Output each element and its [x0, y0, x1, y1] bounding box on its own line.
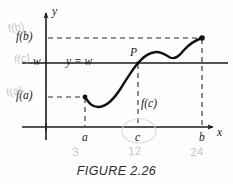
x-axis-label: x [217, 127, 222, 139]
label-w: w [33, 56, 41, 68]
y-axis-label: y [52, 6, 57, 18]
label-point-p: P [130, 47, 137, 59]
label-f-of-b: f(b) [16, 31, 33, 43]
point-p-marker [136, 61, 139, 64]
pencil-mark-24: 24 [190, 146, 204, 159]
tick-label-c: c [135, 132, 140, 144]
figure-caption: FIGURE 2.26 [0, 164, 233, 178]
label-line-equation: y = w [66, 56, 92, 68]
pencil-mark-12: 12 [128, 145, 142, 158]
curve-left-endpoint-dot [83, 95, 88, 100]
figure-2-26: y x f(b) w f(a) y = w P f(c) a c b 3 12 … [0, 0, 233, 184]
tick-label-b: b [199, 132, 205, 144]
pencil-ghost-f-of-c: f(c) [13, 52, 30, 65]
tick-label-a: a [82, 132, 88, 144]
curve-right-endpoint-dot [199, 35, 205, 41]
label-f-of-c: f(c) [141, 98, 157, 110]
pencil-mark-3: 3 [71, 146, 79, 159]
